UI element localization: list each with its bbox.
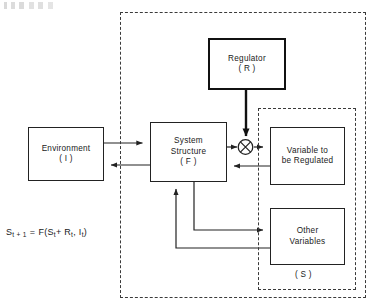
box-variable-line1: Variable to: [287, 146, 328, 157]
box-system-structure-line2: Structure: [171, 147, 206, 158]
eq-fn-sub3: t: [82, 231, 84, 238]
box-regulator-line2: ( R ): [238, 64, 255, 75]
box-environment-line1: Environment: [42, 144, 91, 155]
box-variable-to-be-regulated[interactable]: Variable to be Regulated: [270, 127, 345, 185]
box-other-variables[interactable]: Other Variables: [270, 208, 345, 265]
box-other-variables-line2: Variables: [290, 237, 326, 248]
box-variable-line2: be Regulated: [282, 156, 334, 167]
eq-equals: =: [30, 227, 36, 237]
box-system-structure-line1: System: [174, 136, 203, 147]
box-environment[interactable]: Environment ( I ): [28, 127, 104, 181]
eq-close: ): [84, 227, 87, 237]
box-environment-line2: ( I ): [59, 154, 73, 165]
eq-fn-sub2: t: [71, 231, 73, 238]
box-regulator[interactable]: Regulator ( R ): [208, 38, 286, 90]
state-equation: St + 1=F(St+ Rt, It): [6, 227, 87, 237]
eq-plus: + R: [56, 227, 71, 237]
diagram-canvas: Regulator ( R ) Environment ( I ) System…: [0, 0, 373, 305]
eq-lhs-sub: t + 1: [12, 231, 27, 238]
box-system-structure-line3: ( F ): [180, 157, 196, 168]
box-other-variables-line1: Other: [297, 226, 319, 237]
eq-fn: F(S: [38, 227, 53, 237]
eq-fn-sub1: t: [54, 231, 56, 238]
box-system-structure[interactable]: System Structure ( F ): [150, 122, 227, 182]
box-regulator-line1: Regulator: [228, 54, 266, 65]
eq-comma: , I: [73, 227, 81, 237]
label-state-group: ( S ): [295, 270, 312, 279]
